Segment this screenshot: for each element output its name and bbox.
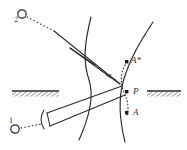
wavefront-right-curve <box>120 22 153 142</box>
point-p-label: P <box>133 87 139 96</box>
point-a-star-label: A* <box>131 56 141 65</box>
solid-ray-group <box>41 31 125 129</box>
point-p-marker <box>125 90 128 93</box>
angle-l-label: L <box>109 73 113 80</box>
figure-canvas: 2 1 A* P A L <box>0 0 187 150</box>
ground-left <box>12 91 59 97</box>
point-a-marker <box>125 111 128 114</box>
ground-right <box>147 91 181 97</box>
beam-edge-lower <box>50 95 125 126</box>
point-a-star-marker <box>125 60 128 63</box>
ray-2-dotted <box>27 17 54 31</box>
ray-1-dotted <box>21 124 41 128</box>
ray-diagram-svg <box>0 0 187 150</box>
source-1-circle <box>11 125 19 133</box>
source-marker-group <box>11 10 26 133</box>
source-2-circle <box>18 10 26 18</box>
point-a-label: A <box>133 108 139 117</box>
ray-wavefront-tail-top <box>70 48 95 65</box>
beam-edge-upper <box>47 86 122 113</box>
aperture-bracket <box>41 110 44 129</box>
beam-end-cap <box>47 113 50 126</box>
wavefront-left-curve <box>79 17 91 140</box>
